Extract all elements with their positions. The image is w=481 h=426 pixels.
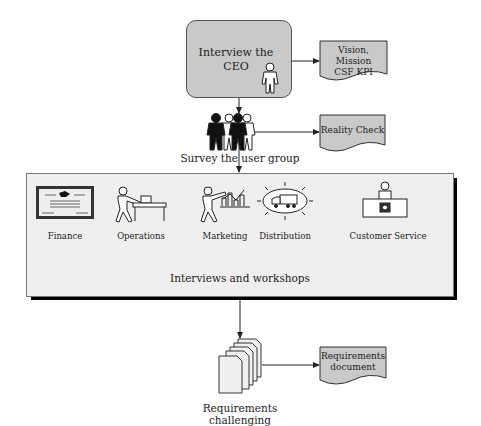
requirements-document-label: Requirements document	[320, 351, 386, 373]
